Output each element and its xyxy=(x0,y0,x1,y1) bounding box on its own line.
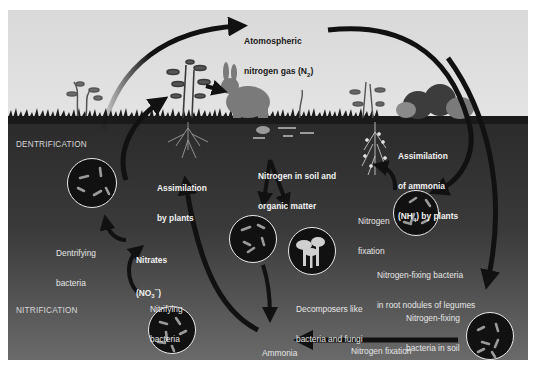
nitrogen-cycle-diagram: DENTRIFICATION NITRIFICATION Atomospheri… xyxy=(8,10,528,360)
label-atmospheric-nitrogen: Atomospheric nitrogen gas (N2) xyxy=(244,16,313,100)
label-ammonia: Ammonia (NH4) xyxy=(262,328,297,360)
label-dentrifying-bacteria: Dentrifying bacteria xyxy=(56,228,96,308)
label-soil-nitrogen-fixing-bacteria: Nitrogen-fixing bacteria in soil xyxy=(406,293,460,360)
label-nitrogen-in-soil: Nitrogen in soil and organic matter xyxy=(258,151,336,231)
section-dentrification: DENTRIFICATION xyxy=(16,140,87,149)
label-bottom-nitrogen-fixation: Nitrogen fixation xyxy=(351,346,412,356)
label-assimilation-of-ammonia: Assimilation of ammonia (NH4) by plants xyxy=(398,131,458,245)
mushroom-icon xyxy=(296,237,325,268)
label-assimilation-by-plants: Assimilation by plants xyxy=(157,163,207,243)
label-nitrifying-bacteria: Nitrifying bacteria xyxy=(150,284,183,360)
